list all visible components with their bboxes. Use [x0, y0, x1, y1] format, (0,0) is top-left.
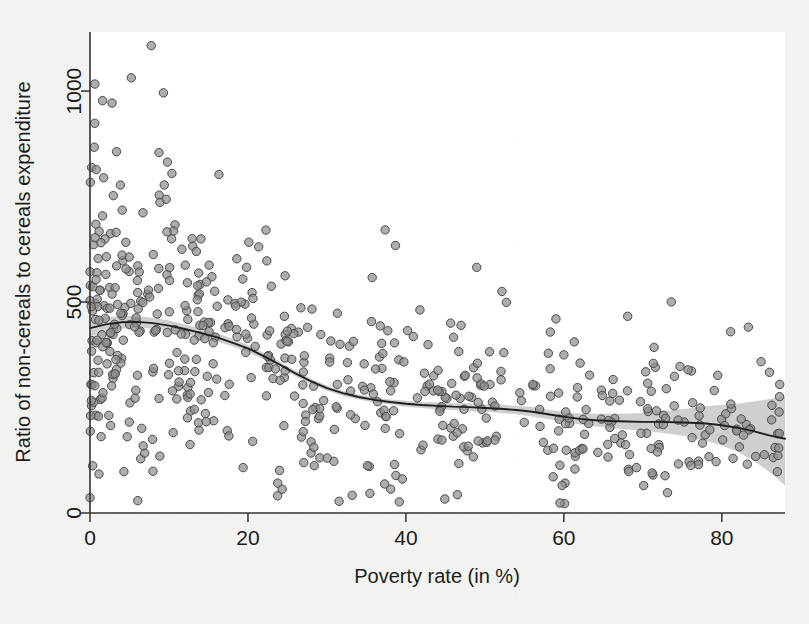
scatter-point	[299, 399, 307, 407]
scatter-point	[280, 312, 288, 320]
scatter-point	[173, 395, 181, 403]
scatter-point	[757, 357, 765, 365]
scatter-point	[139, 209, 147, 217]
scatter-point	[194, 419, 202, 427]
scatter-point	[106, 329, 114, 337]
scatter-point	[134, 305, 142, 313]
scatter-point	[648, 469, 656, 477]
scatter-point	[215, 170, 223, 178]
scatter-point	[169, 428, 177, 436]
scatter-point	[453, 491, 461, 499]
scatter-point	[594, 448, 602, 456]
scatter-point	[106, 304, 114, 312]
scatter-point	[168, 169, 176, 177]
scatter-point	[130, 323, 138, 331]
scatter-point	[368, 273, 376, 281]
scatter-point	[714, 371, 722, 379]
scatter-point	[183, 414, 191, 422]
scatter-point	[192, 355, 200, 363]
scatter-point	[123, 433, 131, 441]
scatter-point	[201, 409, 209, 417]
scatter-point	[95, 368, 103, 376]
scatter-point	[546, 365, 554, 373]
scatter-point	[239, 275, 247, 283]
figure-container: 020406080 05001000 Poverty rate (in %) R…	[0, 0, 809, 624]
scatter-point	[381, 226, 389, 234]
scatter-point	[197, 396, 205, 404]
scatter-point	[111, 370, 119, 378]
scatter-point	[102, 253, 110, 261]
scatter-point	[134, 496, 142, 504]
scatter-point	[102, 270, 110, 278]
scatter-point	[621, 440, 629, 448]
x-axis-title: Poverty rate (in %)	[354, 565, 520, 587]
scatter-point	[453, 429, 461, 437]
scatter-point	[573, 383, 581, 391]
scatter-point	[134, 288, 142, 296]
scatter-point	[349, 337, 357, 345]
scatter-point	[369, 390, 377, 398]
scatter-point	[376, 322, 384, 330]
scatter-point	[696, 404, 704, 412]
scatter-point	[556, 499, 564, 507]
scatter-point	[639, 481, 647, 489]
scatter-point	[420, 369, 428, 377]
scatter-point	[327, 337, 335, 345]
scatter-point	[303, 323, 311, 331]
scatter-point	[737, 415, 745, 423]
scatter-point	[480, 382, 488, 390]
scatter-point	[297, 304, 305, 312]
scatter-point	[386, 387, 394, 395]
scatter-point	[308, 305, 316, 313]
scatter-point	[674, 460, 682, 468]
scatter-point	[147, 41, 155, 49]
scatter-point	[310, 443, 318, 451]
scatter-point	[386, 377, 394, 385]
scatter-point	[125, 418, 133, 426]
scatter-point	[116, 181, 124, 189]
scatter-point	[582, 405, 590, 413]
scatter-point	[649, 359, 657, 367]
scatter-point	[670, 372, 678, 380]
scatter-point	[98, 212, 106, 220]
scatter-point	[705, 453, 713, 461]
scatter-point	[174, 367, 182, 375]
scatter-point	[139, 442, 147, 450]
scatter-point	[676, 362, 684, 370]
scatter-point	[767, 416, 775, 424]
scatter-point	[87, 347, 95, 355]
scatter-point	[546, 328, 554, 336]
scatter-point	[473, 359, 481, 367]
scatter-point	[371, 365, 379, 373]
scatter-point	[598, 391, 606, 399]
scatter-point	[299, 381, 307, 389]
scatter-point	[552, 315, 560, 323]
scatter-point	[113, 300, 121, 308]
scatter-point	[461, 371, 469, 379]
scatter-point	[106, 421, 114, 429]
scatter-point	[661, 472, 669, 480]
scatter-point	[698, 439, 706, 447]
scatter-point	[576, 359, 584, 367]
scatter-point	[688, 433, 696, 441]
scatter-point	[233, 255, 241, 263]
scatter-point	[751, 452, 759, 460]
scatter-point	[225, 380, 233, 388]
scatter-point	[283, 337, 291, 345]
scatter-point	[775, 444, 783, 452]
scatter-point	[317, 330, 325, 338]
scatter-point	[280, 422, 288, 430]
scatter-point	[433, 386, 441, 394]
scatter-point	[558, 481, 566, 489]
scatter-point	[91, 119, 99, 127]
scatter-point	[606, 397, 614, 405]
y-tick-label: 1000	[62, 68, 85, 115]
scatter-point	[663, 488, 671, 496]
scatter-point	[662, 385, 670, 393]
scatter-point	[133, 371, 141, 379]
scatter-point	[193, 296, 201, 304]
scatter-point	[190, 336, 198, 344]
scatter-point	[231, 302, 239, 310]
scatter-point	[760, 451, 768, 459]
scatter-point	[107, 382, 115, 390]
